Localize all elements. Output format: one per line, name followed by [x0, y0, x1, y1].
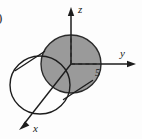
x-axis-arrowhead [19, 121, 29, 130]
x-axis-label: x [32, 122, 38, 134]
figure-container: z y x 5 [0, 0, 142, 139]
z-axis-arrowhead [68, 7, 74, 16]
cylinder-diagram: z y x 5 [0, 0, 142, 139]
y-tick-5: 5 [95, 67, 100, 78]
z-axis-label: z [77, 3, 83, 15]
y-axis-arrowhead [127, 61, 136, 67]
y-axis-label: y [119, 47, 125, 59]
y-tick-label: 5 [95, 67, 100, 78]
corner-paren: ) [0, 10, 2, 25]
figure-corner-mark: ) [0, 10, 2, 25]
front-circle-interior-mask [10, 56, 70, 114]
front-disk-open-face [10, 56, 70, 114]
